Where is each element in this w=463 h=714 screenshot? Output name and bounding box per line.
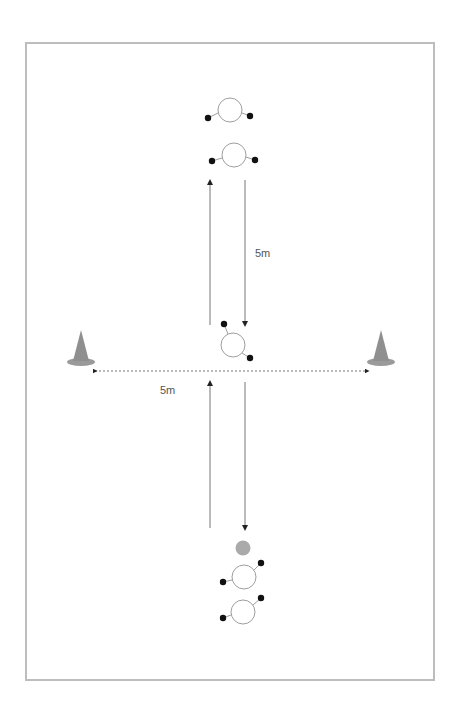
vertical-distance-label: 5m xyxy=(255,247,270,259)
cone-left xyxy=(67,330,95,366)
player-center xyxy=(221,321,253,361)
player-top-2 xyxy=(209,143,258,167)
player-top-1 xyxy=(205,98,253,122)
cone-right xyxy=(367,330,395,366)
player-bottom-2 xyxy=(220,595,264,624)
drill-diagram xyxy=(0,0,463,714)
ball xyxy=(236,541,251,556)
horizontal-distance-label: 5m xyxy=(160,384,175,396)
player-bottom-1 xyxy=(220,560,264,589)
